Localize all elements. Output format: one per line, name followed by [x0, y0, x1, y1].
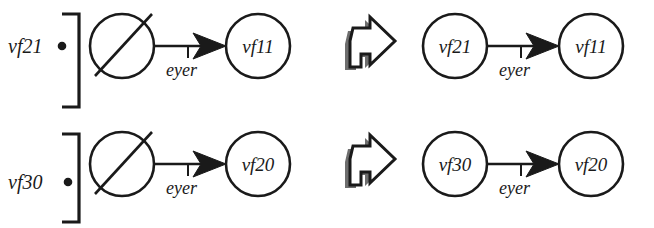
right-square-bracket-icon: [62, 134, 79, 222]
block-arrow-body: [350, 135, 395, 185]
graph-node: vf30: [423, 132, 487, 196]
external-port-dot-icon: [58, 42, 65, 49]
node-label: vf20: [242, 154, 275, 175]
external-port-dot-icon: [64, 178, 71, 185]
graph-node: vf11: [559, 14, 623, 78]
diagram-canvas: vf21 eyer vf11: [0, 0, 654, 228]
node-label: vf11: [575, 36, 606, 57]
rewrite-rule-row: vf30 eyer vf20: [8, 132, 623, 222]
slashed-circle-node-icon: [90, 132, 154, 196]
slashed-circle-node-icon: [90, 14, 154, 78]
rewrite-rule-row: vf21 eyer vf11: [8, 14, 623, 107]
graph-node: vf20: [226, 132, 290, 196]
node-label: vf11: [242, 36, 273, 57]
external-port-group: vf21: [8, 35, 66, 58]
edge-group: eyer: [487, 33, 559, 80]
right-square-bracket-icon: [62, 14, 79, 107]
graph-node: vf11: [226, 14, 290, 78]
node-label: vf30: [439, 154, 472, 175]
node-label: vf20: [575, 154, 608, 175]
edge-label: eyer: [499, 178, 531, 198]
node-label: vf21: [439, 36, 472, 57]
graph-node: vf20: [559, 132, 623, 196]
graph-node: vf21: [423, 14, 487, 78]
block-arrow-body: [350, 17, 395, 67]
external-port-group: vf30: [8, 171, 72, 194]
external-port-label: vf30: [8, 171, 42, 194]
edge-group: eyer: [154, 151, 226, 198]
block-arrow-right-icon: [345, 135, 395, 188]
rewrite-rule-diagram: vf21 eyer vf11: [0, 0, 654, 228]
edge-label: eyer: [166, 178, 198, 198]
edge-group: eyer: [487, 151, 559, 198]
block-arrow-right-icon: [345, 17, 395, 70]
edge-label: eyer: [499, 60, 531, 80]
edge-label: eyer: [166, 60, 198, 80]
external-port-label: vf21: [8, 35, 42, 58]
edge-group: eyer: [154, 33, 226, 80]
